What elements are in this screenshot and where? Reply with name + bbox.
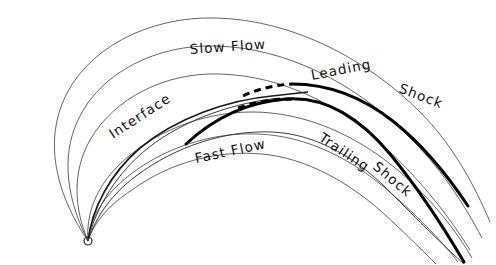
label-interface: Interface <box>106 90 174 142</box>
label-trailing: Trailing <box>315 129 372 175</box>
shock-interface-diagram: Slow Flow Fast Flow Interface Leading Sh… <box>0 0 496 265</box>
interface-curve <box>88 92 308 241</box>
label-leading: Leading <box>310 56 373 83</box>
trailing-shock-curve <box>186 99 464 262</box>
fast-flow-arc-4 <box>88 132 464 264</box>
fast-flow-arc-2 <box>88 134 458 262</box>
label-slow-flow: Slow Flow <box>189 36 267 57</box>
label-fast-flow: Fast Flow <box>193 135 267 166</box>
trailing-shock-group <box>186 99 464 262</box>
interface-curve-group <box>88 92 308 241</box>
label-leading-shock: Shock <box>397 80 446 111</box>
